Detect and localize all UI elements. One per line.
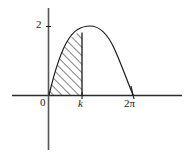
origin-label: 0 bbox=[40, 97, 46, 108]
graph-svg bbox=[0, 0, 195, 155]
x-axis-tick-label-k: k bbox=[78, 98, 83, 109]
x-axis-tick-label-2pi: 2π bbox=[124, 98, 135, 109]
y-axis-tick-label-2: 2 bbox=[36, 19, 42, 30]
figure-container: 2 0 k 2π bbox=[0, 0, 195, 155]
